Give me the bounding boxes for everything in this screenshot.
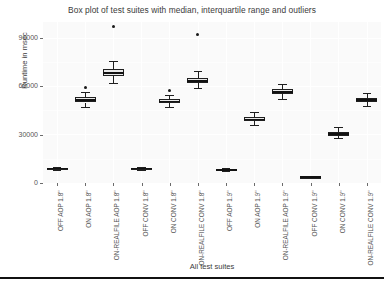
x-tick-label: ON CONV 1.8" <box>169 191 176 291</box>
x-tick-mark <box>254 183 255 186</box>
x-tick-label: ON-REALFILE AOP 1.9" <box>282 191 289 291</box>
x-tick-mark <box>198 183 199 186</box>
bottom-divider <box>0 277 384 279</box>
x-tick-label: OFF AOP 1.8" <box>57 191 64 291</box>
boxplot-box <box>43 22 381 183</box>
x-tick-label: ON CONV 1.9" <box>338 191 345 291</box>
x-tick-label: ON AOP 1.9" <box>254 191 261 291</box>
x-tick-mark <box>339 183 340 186</box>
x-tick-mark <box>311 183 312 186</box>
y-tick-label: 0 <box>0 179 38 186</box>
x-tick-label: ON AOP 1.8" <box>85 191 92 291</box>
y-tick-mark <box>40 38 43 39</box>
plot-panel <box>43 22 381 183</box>
x-tick-label: OFF AOP 1.9" <box>226 191 233 291</box>
x-tick-mark <box>142 183 143 186</box>
y-tick-mark <box>40 135 43 136</box>
x-tick-label: ON-REALFILE CONV 1.8" <box>197 191 204 291</box>
x-tick-label: OFF CONV 1.9" <box>310 191 317 291</box>
boxplot-cap-upper <box>363 93 372 94</box>
x-tick-mark <box>282 183 283 186</box>
y-tick-mark <box>40 86 43 87</box>
chart-title: Box plot of test suites with median, int… <box>0 5 384 15</box>
x-tick-label: ON-REALFILE AOP 1.8" <box>113 191 120 291</box>
x-tick-mark <box>367 183 368 186</box>
x-tick-mark <box>57 183 58 186</box>
x-tick-label: OFF CONV 1.8" <box>141 191 148 291</box>
x-tick-label: ON-REALFILE CONV 1.9" <box>366 191 373 291</box>
x-tick-mark <box>226 183 227 186</box>
x-axis-title: All test suites <box>43 262 381 271</box>
boxplot-median-line <box>356 99 377 101</box>
boxplot-cap-lower <box>363 106 372 107</box>
x-tick-mark <box>85 183 86 186</box>
y-tick-mark <box>40 183 43 184</box>
x-tick-mark <box>113 183 114 186</box>
y-tick-label: 30000 <box>0 131 38 138</box>
y-axis-title: Runtime in msec <box>20 1 29 121</box>
boxplot-figure: Box plot of test suites with median, int… <box>0 0 384 291</box>
x-tick-mark <box>170 183 171 186</box>
